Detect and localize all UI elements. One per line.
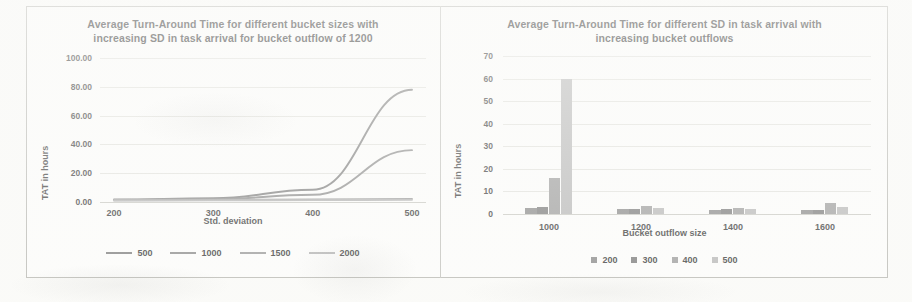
bar [537, 207, 548, 214]
line-series-500 [114, 90, 412, 200]
bar-chart-x-axis-label: Bucket outflow size [441, 228, 888, 238]
legend-swatch-icon [631, 257, 637, 263]
bar [561, 79, 572, 214]
bar-chart-bars [441, 50, 888, 278]
bar [617, 209, 628, 214]
bar-chart-plot-area: TAT in hours 010203040506070 10001200140… [441, 50, 888, 278]
line-chart-panel: Average Turn-Around Time for different b… [26, 6, 440, 278]
line-chart-plot-area: TAT in hours 0.0020.0040.0060.0080.00100… [26, 50, 440, 278]
legend-item[interactable]: 400 [672, 255, 698, 265]
bar [825, 203, 836, 214]
bar [629, 209, 640, 214]
line-chart-title-line1: Average Turn-Around Time for different b… [87, 18, 378, 30]
bar [549, 178, 560, 214]
line-chart-title-line2: increasing SD in task arrival for bucket… [60, 31, 406, 45]
legend-label: 300 [642, 255, 657, 265]
legend-swatch-icon [712, 257, 718, 263]
legend-item[interactable]: 300 [631, 255, 657, 265]
legend-label: 2000 [340, 248, 360, 258]
bar [641, 206, 652, 214]
bar [801, 210, 812, 214]
legend-label: 500 [137, 248, 152, 258]
bar [837, 207, 848, 214]
bar-chart-panel: Average Turn-Around Time for different S… [441, 6, 888, 278]
bar [653, 208, 664, 214]
legend-item[interactable]: 200 [591, 255, 617, 265]
bar [721, 209, 732, 214]
legend-item[interactable]: 2000 [309, 248, 360, 258]
legend-swatch-icon [672, 257, 678, 263]
line-series-1000 [114, 150, 412, 200]
bar [525, 208, 536, 214]
bar [709, 210, 720, 214]
legend-label: 1000 [201, 248, 221, 258]
legend-item[interactable]: 1000 [170, 248, 221, 258]
legend-item[interactable]: 500 [106, 248, 152, 258]
bar-chart-title-line1: Average Turn-Around Time for different S… [507, 18, 822, 30]
legend-label: 500 [723, 255, 738, 265]
bar [733, 208, 744, 214]
legend-item[interactable]: 500 [712, 255, 738, 265]
legend-swatch-icon [591, 257, 597, 263]
bar [745, 209, 756, 214]
bar [813, 210, 824, 214]
legend-label: 200 [602, 255, 617, 265]
bar-chart-title-line2: increasing bucket outflows [475, 31, 854, 45]
legend-line-icon [106, 252, 132, 254]
line-chart-series-lines [26, 50, 440, 278]
legend-label: 1500 [271, 248, 291, 258]
line-series-2000 [114, 200, 412, 201]
legend-line-icon [309, 252, 335, 254]
bar-chart-title: Average Turn-Around Time for different S… [441, 6, 888, 45]
bar-chart-legend: 200300400500 [441, 255, 888, 265]
line-chart-title: Average Turn-Around Time for different b… [26, 6, 440, 45]
legend-line-icon [170, 252, 196, 254]
line-chart-x-axis-label: Std. deviation [26, 216, 440, 226]
legend-line-icon [240, 252, 266, 254]
legend-label: 400 [683, 255, 698, 265]
legend-item[interactable]: 1500 [240, 248, 291, 258]
line-chart-legend: 500100015002000 [26, 248, 440, 258]
